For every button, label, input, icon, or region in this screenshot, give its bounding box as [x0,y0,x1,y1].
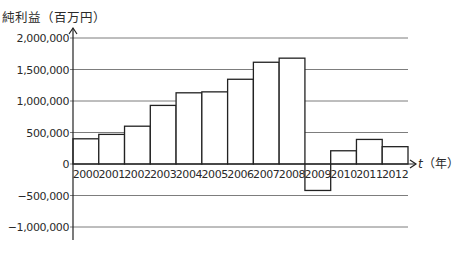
x-tick-label: 2011 [356,168,382,181]
x-axis-unit: （年） [423,157,459,171]
bar-2005 [202,92,228,164]
y-tick-label: −1,000,000 [8,221,70,234]
bar-2003 [150,105,176,164]
x-axis-category-labels: 2000200120022003200420052006200720082009… [73,168,409,181]
bar-2007 [253,62,279,164]
x-tick-label: 2005 [202,168,229,181]
x-tick-label: 2001 [98,168,124,181]
y-tick-label: 0 [62,158,69,171]
x-axis-title: t（年） [418,157,459,171]
bar-2000 [73,139,99,164]
bar-2001 [99,134,125,164]
x-tick-label: 2003 [150,168,177,181]
x-tick-label: 2000 [73,168,100,181]
y-tick-label: 500,000 [26,127,69,140]
bar-2006 [228,79,254,164]
x-tick-label: 2006 [227,168,254,181]
y-axis-ticks: 2,000,0001,500,0001,000,000500,0000−500,… [8,32,70,234]
x-tick-label: 2009 [305,168,332,181]
bar-chart: 純利益（百万円） 2,000,0001,500,0001,000,000500,… [0,0,464,256]
y-tick-label: −500,000 [17,190,69,203]
bar-2004 [176,93,202,164]
x-tick-label: 2012 [382,168,408,181]
x-tick-label: 2004 [176,168,203,181]
x-tick-label: 2008 [279,168,306,181]
bar-2012 [382,147,408,164]
bar-2008 [279,58,305,164]
y-tick-label: 1,500,000 [17,64,70,77]
bar-2002 [125,126,151,164]
x-tick-label: 2010 [330,168,357,181]
x-tick-label: 2007 [253,168,280,181]
y-tick-label: 1,000,000 [17,95,70,108]
bar-2010 [331,151,357,164]
y-axis-title: 純利益（百万円） [2,10,106,25]
bar-2011 [356,139,382,164]
x-tick-label: 2002 [124,168,150,181]
y-tick-label: 2,000,000 [17,32,70,45]
